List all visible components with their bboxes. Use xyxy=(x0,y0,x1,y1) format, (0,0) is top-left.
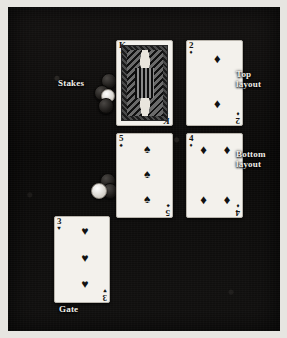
spade-pip: ♠ xyxy=(144,193,150,205)
card-bottom-right[interactable]: 4 ♦ 4 ♦ ♦ ♦ ♦ ♦ xyxy=(186,133,243,218)
card-pips: ♦ ♦ xyxy=(187,41,242,125)
label-top-layout: Top layout xyxy=(236,69,261,90)
chip-light xyxy=(91,183,107,199)
label-bottom-layout-line2: layout xyxy=(236,159,266,169)
label-stakes: Stakes xyxy=(58,78,84,88)
card-pips: ♥ ♥ ♥ xyxy=(55,217,109,302)
diamond-pip: ♦ xyxy=(224,192,231,205)
label-top-layout-line1: Top xyxy=(236,69,261,79)
card-bottom-left[interactable]: 5 ♠ 5 ♠ ♠ ♠ ♠ xyxy=(116,133,173,218)
game-table-surface: K ♠ K ♠ 2 ♦ 2 ♦ ♦ ♦ xyxy=(8,7,280,331)
figure-container: K ♠ K ♠ 2 ♦ 2 ♦ ♦ ♦ xyxy=(0,0,287,338)
spade-pip: ♠ xyxy=(144,168,150,180)
diamond-pip: ♦ xyxy=(200,192,207,205)
card-top-left[interactable]: K ♠ K ♠ xyxy=(116,40,173,126)
heart-pip: ♥ xyxy=(81,252,88,264)
label-bottom-layout: Bottom layout xyxy=(236,149,266,170)
card-top-right[interactable]: 2 ♦ 2 ♦ ♦ ♦ xyxy=(186,40,243,126)
spade-pip: ♠ xyxy=(144,143,150,155)
diamond-pip: ♦ xyxy=(214,97,221,110)
card-pips: ♠ ♠ ♠ xyxy=(117,134,172,217)
card-pips: ♦ ♦ ♦ ♦ xyxy=(187,134,242,217)
heart-pip: ♥ xyxy=(81,278,88,290)
court-card-artwork xyxy=(121,45,168,121)
card-gate[interactable]: 3 ♥ 3 ♥ ♥ ♥ ♥ xyxy=(54,216,110,303)
diamond-pip: ♦ xyxy=(214,51,221,64)
heart-pip: ♥ xyxy=(81,225,88,237)
label-gate: Gate xyxy=(59,304,78,314)
diamond-pip: ♦ xyxy=(224,142,231,155)
chip-dark xyxy=(98,98,114,114)
label-top-layout-line2: layout xyxy=(236,79,261,89)
label-bottom-layout-line1: Bottom xyxy=(236,149,266,159)
diamond-pip: ♦ xyxy=(200,142,207,155)
